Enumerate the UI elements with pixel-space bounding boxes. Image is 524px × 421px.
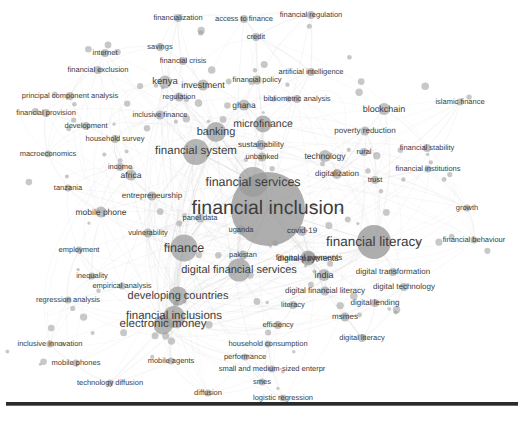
graph-node[interactable] — [256, 140, 266, 150]
graph-node[interactable] — [252, 33, 260, 41]
graph-node[interactable] — [253, 76, 262, 85]
graph-node[interactable] — [269, 366, 276, 373]
network-graph-svg — [0, 0, 524, 421]
network-map-canvas[interactable]: financial inclusionfinancial servicesfin… — [0, 0, 524, 421]
graph-node[interactable] — [228, 259, 251, 282]
graph-node[interactable] — [168, 358, 175, 365]
graph-node[interactable] — [319, 150, 331, 162]
graph-node[interactable] — [206, 122, 226, 142]
graph-node[interactable] — [318, 269, 330, 281]
graph-node[interactable] — [265, 341, 272, 348]
graph-node[interactable] — [45, 151, 52, 158]
graph-node[interactable] — [42, 109, 50, 117]
graph-node[interactable] — [76, 247, 83, 254]
graph-node[interactable] — [307, 11, 315, 19]
graph-node[interactable] — [94, 66, 102, 74]
graph-node[interactable] — [240, 15, 248, 23]
graph-node[interactable] — [148, 192, 157, 201]
graph-node[interactable] — [169, 287, 188, 306]
graph-node[interactable] — [175, 93, 184, 102]
graph-node[interactable] — [183, 139, 209, 165]
graph-node[interactable] — [358, 334, 366, 342]
graph-node[interactable] — [96, 207, 107, 218]
graph-node[interactable] — [242, 354, 249, 361]
graph-node[interactable] — [274, 321, 282, 329]
graph-node[interactable] — [301, 251, 316, 266]
graph-node[interactable] — [154, 316, 173, 335]
graph-node[interactable] — [361, 127, 370, 136]
graph-node[interactable] — [107, 380, 114, 387]
graph-node[interactable] — [464, 205, 471, 212]
graph-node[interactable] — [239, 100, 250, 111]
graph-node[interactable] — [73, 360, 80, 367]
graph-node[interactable] — [423, 144, 431, 152]
graph-node[interactable] — [341, 313, 350, 322]
graph-node[interactable] — [196, 214, 205, 223]
graph-node[interactable] — [89, 273, 96, 280]
graph-node[interactable] — [259, 379, 266, 386]
graph-node[interactable] — [371, 299, 379, 307]
graph-node[interactable] — [332, 169, 342, 179]
graph-node[interactable] — [321, 287, 330, 296]
graph-node[interactable] — [280, 395, 287, 402]
graph-node[interactable] — [293, 95, 301, 103]
graph-node[interactable] — [238, 167, 268, 197]
graph-node[interactable] — [205, 390, 212, 397]
graph-node[interactable] — [156, 43, 164, 51]
graph-node[interactable] — [457, 99, 464, 106]
graph-node[interactable] — [400, 283, 408, 291]
graph-node[interactable] — [171, 235, 198, 262]
graph-node[interactable] — [111, 135, 119, 143]
graph-node[interactable] — [307, 68, 315, 76]
graph-node[interactable] — [126, 170, 137, 181]
graph-node[interactable] — [47, 341, 54, 348]
graph-node[interactable] — [357, 225, 391, 259]
graph-node[interactable] — [119, 283, 126, 290]
graph-node[interactable] — [258, 153, 267, 162]
graph-node[interactable] — [239, 251, 248, 260]
bottom-divider-rule — [6, 402, 518, 406]
graph-node[interactable] — [360, 148, 368, 156]
graph-node[interactable] — [82, 122, 90, 130]
graph-node[interactable] — [156, 111, 165, 120]
graph-node[interactable] — [144, 229, 153, 238]
graph-node[interactable] — [378, 103, 390, 115]
graph-node[interactable] — [159, 76, 172, 89]
graph-node[interactable] — [198, 80, 209, 91]
graph-node[interactable] — [389, 268, 397, 276]
graph-node[interactable] — [371, 176, 379, 184]
graph-node[interactable] — [237, 226, 246, 235]
graph-node[interactable] — [255, 116, 272, 133]
graph-node[interactable] — [425, 166, 432, 173]
graph-node[interactable] — [65, 297, 72, 304]
graph-node[interactable] — [471, 237, 478, 244]
graph-node[interactable] — [116, 163, 124, 171]
graph-node[interactable] — [297, 226, 307, 236]
graph-node[interactable] — [101, 49, 109, 57]
graph-node[interactable] — [65, 185, 72, 192]
graph-node[interactable] — [179, 57, 187, 65]
graph-node[interactable] — [174, 14, 182, 22]
graph-node[interactable] — [66, 92, 74, 100]
graph-node[interactable] — [289, 301, 297, 309]
